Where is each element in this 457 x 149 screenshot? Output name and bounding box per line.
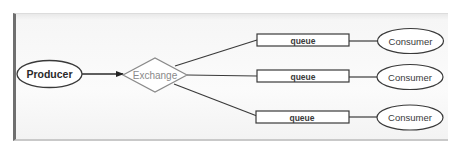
exchange-node: Exchange: [123, 58, 187, 92]
queue-label: queue: [290, 36, 315, 46]
producer-node: Producer: [17, 61, 82, 88]
consumer-node-1: Consumer: [378, 29, 444, 54]
producer-label: Producer: [26, 68, 72, 80]
queue-node-1: queue: [257, 34, 349, 46]
consumer-label: Consumer: [389, 36, 433, 47]
consumer-node-3: Consumer: [377, 105, 443, 130]
edge-exchange-queue-3: [174, 84, 257, 116]
exchange-label: Exchange: [133, 70, 178, 81]
consumer-node-2: Consumer: [377, 65, 443, 90]
queue-label: queue: [290, 72, 315, 82]
queue-label: queue: [289, 113, 314, 123]
consumer-label: Consumer: [388, 112, 432, 123]
diagram-canvas: Producer Exchange queue queue queue Cons…: [0, 0, 457, 149]
consumer-label: Consumer: [388, 72, 432, 83]
queue-node-2: queue: [257, 70, 349, 82]
queue-node-3: queue: [256, 111, 349, 123]
edge-exchange-queue-2: [187, 75, 257, 76]
edge-exchange-queue-1: [175, 40, 257, 66]
